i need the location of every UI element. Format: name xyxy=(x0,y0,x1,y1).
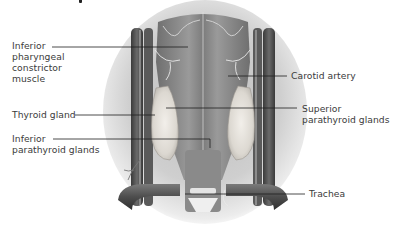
label-thyroid-gland: Thyroid gland xyxy=(12,109,76,120)
label-superior-parathyroid-glands: Superior parathyroid glands xyxy=(302,103,390,125)
label-carotid-artery: Carotid artery xyxy=(291,70,356,81)
label-inferior-parathyroid-glands: Inferior parathyroid glands xyxy=(12,133,100,155)
right-jugular-vein xyxy=(263,28,275,206)
anatomy-diagram: Inferior pharyngeal constrictor muscle T… xyxy=(0,0,396,229)
label-inferior-pharyngeal-constrictor-muscle: Inferior pharyngeal constrictor muscle xyxy=(12,40,65,84)
label-trachea: Trachea xyxy=(309,188,345,199)
left-jugular-vein xyxy=(131,28,143,206)
